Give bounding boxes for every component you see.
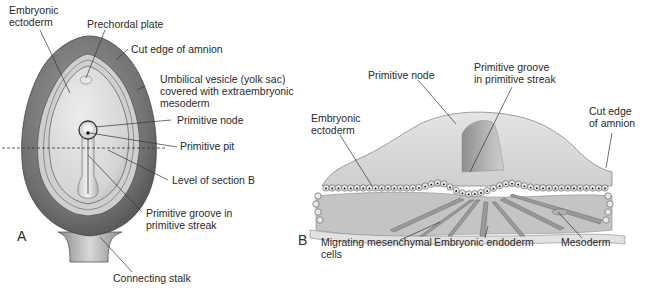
label-migrating-cells: Migrating mesenchymal cells	[321, 236, 432, 260]
panel-b-letter: B	[298, 232, 307, 248]
label-umbilical-vesicle: Umbilical vesicle (yolk sac) covered wit…	[160, 73, 294, 109]
label-prechordal-plate: Prechordal plate	[87, 18, 163, 30]
primitive-pit-shape	[86, 131, 90, 135]
connecting-stalk-shape	[58, 232, 122, 262]
label-primitive-pit: Primitive pit	[180, 140, 234, 152]
panel-a-drawing	[2, 30, 177, 272]
label-cut-edge-amnion-a: Cut edge of amnion	[131, 43, 223, 55]
label-mesoderm: Mesoderm	[561, 236, 611, 248]
label-embryonic-endoderm: Embryonic endoderm	[434, 236, 534, 248]
label-primitive-groove-a: Primitive groove in primitive streak	[146, 207, 232, 231]
label-embryonic-ectoderm-b: Embryonic ectoderm	[311, 112, 361, 136]
embryo-figure: Embryonic ectoderm Prechordal plate Cut …	[0, 0, 645, 291]
label-primitive-groove-b: Primitive groove in primitive streak	[474, 61, 556, 85]
label-primitive-node-a: Primitive node	[177, 114, 244, 126]
label-primitive-node-b: Primitive node	[368, 69, 435, 81]
panel-b-drawing	[310, 80, 625, 244]
mesoderm-layer-shape	[316, 192, 612, 236]
label-embryonic-ectoderm-a: Embryonic ectoderm	[9, 4, 59, 28]
label-level-section-b: Level of section B	[172, 174, 255, 186]
panel-a-letter: A	[17, 228, 26, 244]
label-cut-edge-amnion-b: Cut edge of amnion	[589, 105, 635, 129]
label-connecting-stalk: Connecting stalk	[113, 272, 191, 284]
